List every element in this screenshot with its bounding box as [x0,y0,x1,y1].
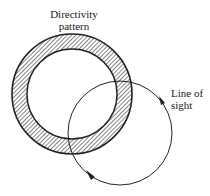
directivity-label-line1: Directivity [38,8,110,20]
sight-label-line2: sight [171,99,210,111]
directivity-pattern-label: Directivity pattern [38,8,110,32]
sight-label-line1: Line of [171,87,210,99]
line-of-sight-label: Line of sight [171,87,210,111]
directivity-label-line2: pattern [38,20,110,32]
